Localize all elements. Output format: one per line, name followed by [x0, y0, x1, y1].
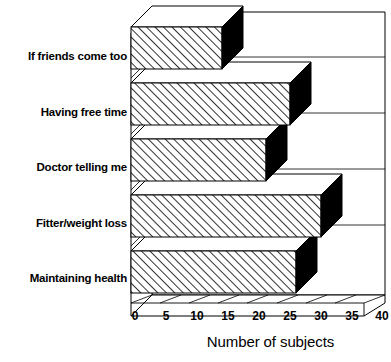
- x-tick-5: 5: [163, 309, 170, 323]
- x-tick-15: 15: [221, 309, 234, 323]
- x-tick-0: 0: [132, 309, 139, 323]
- x-tick-30: 30: [314, 309, 327, 323]
- bar-maintaining-health: [131, 230, 317, 293]
- bar-doctor-telling-me: [131, 118, 287, 181]
- x-tick-10: 10: [190, 309, 203, 323]
- bar-if-friends-come-too: [131, 6, 243, 69]
- x-axis-title: Number of subjects: [150, 333, 391, 350]
- bar-fitter-weight-loss: [131, 174, 342, 237]
- x-tick-25: 25: [283, 309, 296, 323]
- x-tick-20: 20: [252, 309, 265, 323]
- x-tick-35: 35: [345, 309, 358, 323]
- plot-area: [0, 0, 391, 362]
- x-tick-40: 40: [375, 309, 388, 323]
- bar-having-free-time: [131, 62, 311, 125]
- bar-chart: If friends come too Having free time Doc…: [0, 0, 391, 362]
